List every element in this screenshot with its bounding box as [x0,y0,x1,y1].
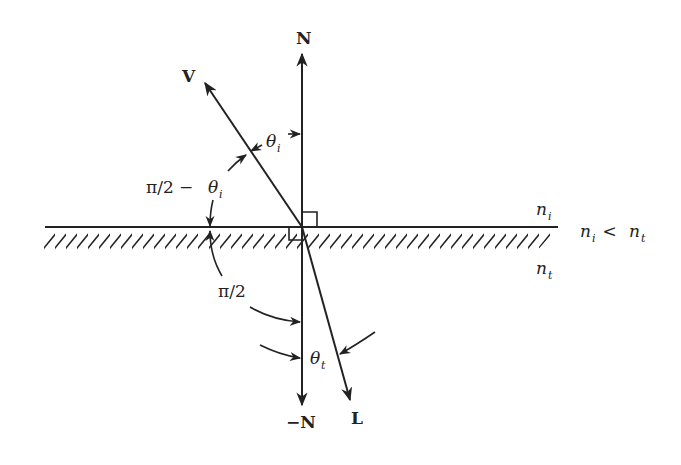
svg-text:n: n [536,199,547,219]
theta-i-label: θ i [266,131,281,155]
svg-text:n: n [629,221,640,241]
lower-medium-label: n t [536,258,553,282]
normal-label: N [296,28,312,48]
svg-text:<: < [597,221,622,241]
refracted-label: L [351,408,363,428]
index-relation-label: n i < n t [580,221,646,245]
right-angle-arrow-to-negative-normal [250,307,300,322]
svg-text:i: i [277,142,281,155]
view-label: V [181,66,196,86]
svg-text:n: n [536,258,547,278]
refraction-diagram: N V −N L θ i π/2 − θ i π/2 θ t n i n t n… [0,0,681,465]
svg-text:i: i [548,210,552,223]
complement-angle-arrow-to-view [228,155,246,171]
upper-medium-label: n i [536,199,552,223]
svg-text:θ: θ [310,348,320,368]
refracted-vector-arrow [302,227,350,400]
svg-text:i: i [219,188,223,201]
svg-text:n: n [580,221,591,241]
svg-text:t: t [321,359,326,372]
complement-angle-arrow-to-surface [210,200,213,226]
negative-normal-label: −N [286,412,316,432]
theta-t-arrow-to-negative-normal [260,345,300,358]
svg-text:θ: θ [208,177,218,197]
svg-text:t: t [548,269,553,282]
theta-i-arrow-to-view [251,145,262,151]
theta-t-arrow-to-refracted [340,332,375,354]
svg-text:π/2 −: π/2 − [146,177,193,197]
complement-angle-label: π/2 − θ i [146,177,223,201]
theta-t-label: θ t [310,348,326,372]
right-angle-mark-upper [302,212,317,227]
svg-text:i: i [592,232,596,245]
right-angle-label: π/2 [218,281,246,301]
svg-text:t: t [641,232,646,245]
svg-text:θ: θ [266,131,276,151]
view-vector-arrow [205,83,302,227]
